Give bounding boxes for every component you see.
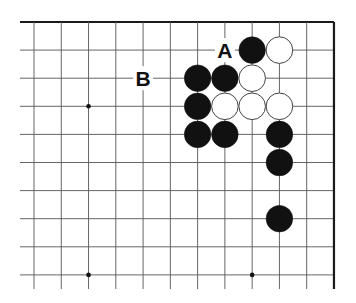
white-stone (212, 93, 239, 120)
star-point (250, 273, 255, 278)
black-stone (266, 121, 293, 148)
point-label-a: A (217, 39, 232, 62)
black-stone (266, 149, 293, 176)
star-point (86, 104, 91, 109)
black-stone (239, 37, 266, 64)
black-stone (184, 65, 211, 92)
white-stone (239, 93, 266, 120)
star-point (86, 273, 91, 278)
black-stone (212, 65, 239, 92)
black-stone (212, 121, 239, 148)
black-stone (184, 93, 211, 120)
black-stone (184, 121, 211, 148)
white-stone (239, 65, 266, 92)
point-label-b: B (135, 67, 150, 90)
white-stone (266, 93, 293, 120)
white-stone (266, 37, 293, 64)
go-board: AB (0, 0, 356, 303)
black-stone (266, 205, 293, 232)
